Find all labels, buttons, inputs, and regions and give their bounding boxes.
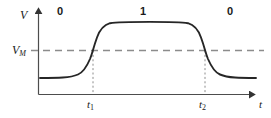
tick-label-t2-subscript: 2: [202, 103, 206, 112]
y-axis-label: V: [20, 9, 27, 21]
bit-label-1-middle: 1: [134, 6, 152, 17]
tick-label-t2: t2: [199, 99, 206, 112]
tick-label-t1-subscript: 1: [90, 103, 94, 112]
voltage-time-figure: 0 1 0 V VM t1 t2 t: [0, 0, 271, 118]
tick-label-t1: t1: [87, 99, 94, 112]
threshold-label-vm: VM: [12, 44, 26, 58]
plot-canvas: [0, 0, 271, 118]
x-axis-label: t: [259, 99, 262, 110]
bit-label-0-after: 0: [221, 6, 239, 17]
threshold-label-subscript: M: [19, 49, 26, 58]
bit-label-0-before: 0: [51, 6, 69, 17]
